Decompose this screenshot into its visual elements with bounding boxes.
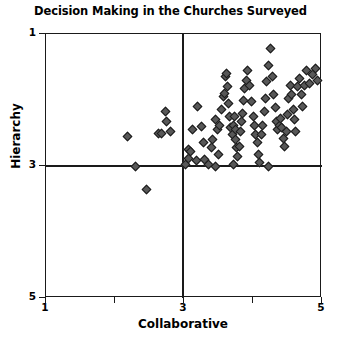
y-axis-tick-label: 1 bbox=[18, 26, 36, 38]
x-axis-label: Collaborative bbox=[45, 317, 321, 331]
data-point-marker bbox=[296, 90, 306, 100]
chart-title: Decision Making in the Churches Surveyed bbox=[0, 4, 341, 18]
data-point-marker bbox=[160, 107, 170, 117]
y-axis-tick bbox=[39, 297, 45, 298]
data-point-marker bbox=[193, 102, 203, 112]
x-axis-tick bbox=[252, 297, 253, 303]
scatter-plot-figure: Decision Making in the Churches Surveyed… bbox=[0, 0, 341, 347]
data-point-marker bbox=[270, 103, 280, 113]
data-point-marker bbox=[247, 96, 257, 106]
data-point-marker bbox=[131, 161, 141, 171]
data-point-marker bbox=[122, 131, 132, 141]
data-point-marker bbox=[258, 120, 268, 130]
x-axis-tick-label: 5 bbox=[311, 301, 331, 313]
data-point-marker bbox=[236, 127, 246, 137]
y-axis-tick bbox=[39, 165, 45, 166]
data-point-marker bbox=[259, 107, 269, 117]
data-point-marker bbox=[162, 116, 172, 126]
data-point-marker bbox=[243, 65, 253, 75]
y-axis-label: Hierarchy bbox=[9, 76, 23, 196]
data-point-marker bbox=[214, 149, 224, 159]
data-point-marker bbox=[196, 121, 206, 131]
plot-area bbox=[45, 33, 321, 297]
data-point-marker bbox=[165, 127, 175, 137]
data-point-marker bbox=[280, 141, 290, 151]
data-point-marker bbox=[217, 105, 227, 115]
data-point-marker bbox=[298, 102, 308, 112]
data-point-marker bbox=[313, 75, 323, 85]
data-point-marker bbox=[291, 127, 301, 137]
data-point-marker bbox=[141, 185, 151, 195]
data-point-marker bbox=[263, 61, 273, 71]
y-axis-tick bbox=[39, 33, 45, 34]
x-axis-tick bbox=[114, 297, 115, 303]
data-point-marker bbox=[263, 161, 273, 171]
x-axis-tick-label: 1 bbox=[35, 301, 55, 313]
data-point-marker bbox=[265, 44, 275, 54]
data-point-marker bbox=[248, 112, 258, 122]
data-point-marker bbox=[289, 115, 299, 125]
x-axis-tick-label: 3 bbox=[173, 301, 193, 313]
y-axis-tick-label: 5 bbox=[18, 290, 36, 302]
